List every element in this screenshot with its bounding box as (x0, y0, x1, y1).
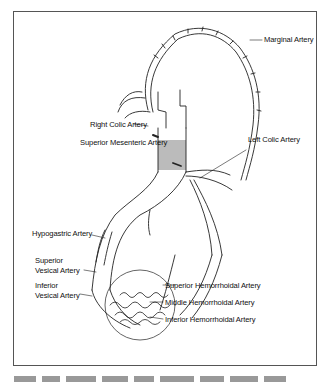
label-right-colic-artery: Right Colic Artery (90, 120, 147, 129)
label-superior-vesical-line1: Superior (35, 256, 63, 265)
label-left-colic-artery: Left Colic Artery (248, 135, 300, 144)
label-marginal-artery: Marginal Artery (264, 35, 314, 44)
label-inferior-vesical-line2: Vesical Artery (35, 291, 80, 300)
label-superior-hemorrhoidal-artery: Superior Hemorrhoidal Artery (165, 281, 261, 290)
label-middle-hemorrhoidal-artery: Middle Hemorrhoidal Artery (165, 298, 254, 307)
label-superior-mesenteric-artery: Superior Mesenteric Artery (80, 138, 167, 147)
label-superior-vesical-line2: Vesical Artery (35, 266, 80, 275)
label-inferior-hemorrhoidal-artery: Inferior Hemorrhoidal Artery (165, 315, 255, 324)
arterial-anatomy-illustration (0, 0, 331, 382)
label-hypogastric-artery: Hypogastric Artery (32, 229, 92, 238)
label-inferior-vesical-line1: Inferior (35, 281, 58, 290)
truncated-caption (14, 376, 314, 382)
